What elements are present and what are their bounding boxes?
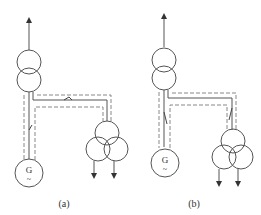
generator-ac-symbol-b: ~	[163, 165, 167, 174]
caption-a: (a)	[58, 198, 69, 209]
caption-b: (b)	[188, 198, 200, 209]
transformer-upper-winding-b	[152, 48, 176, 72]
bus-enclosure-inner-a	[35, 107, 103, 160]
generator-symbol-a: G	[26, 165, 33, 175]
bus-enclosure-inner-b	[170, 105, 227, 148]
generator-ac-symbol-a: ~	[27, 175, 31, 184]
transformer-upper-winding-a	[17, 50, 41, 74]
bus-enclosure-top-a	[37, 95, 111, 121]
diagram-canvas	[0, 0, 261, 215]
bus-enclosure-top-b	[172, 93, 236, 130]
branch-conductor-b	[168, 90, 232, 130]
three-winding-right-b	[229, 145, 253, 169]
diagram-a	[15, 20, 128, 187]
transformer-lower-winding-a	[17, 68, 41, 92]
transformer-lower-winding-b	[152, 66, 176, 90]
generator-symbol-b: G	[162, 155, 169, 165]
